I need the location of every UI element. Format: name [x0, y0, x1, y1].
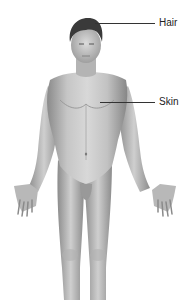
hair-label: Hair [159, 17, 177, 29]
skin-label: Skin [159, 96, 178, 108]
human-figure-illustration [0, 0, 191, 304]
skin-leader-line [100, 102, 155, 103]
hair-leader-line [95, 23, 155, 24]
